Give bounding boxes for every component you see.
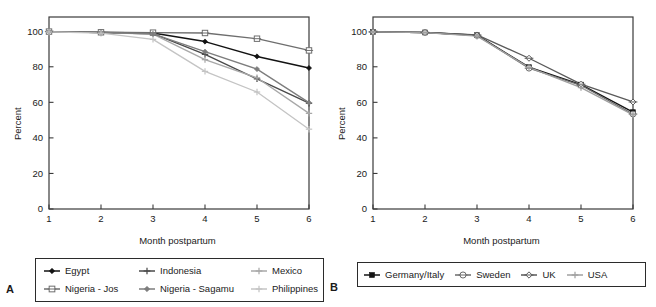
- svg-text:2: 2: [422, 213, 427, 224]
- legend-item-germany-italy[interactable]: Germany/Italy: [362, 269, 444, 281]
- legend-marker-uk-icon: [519, 269, 539, 281]
- panel-b: 020406080100123456 Percent Month postpar…: [328, 0, 656, 307]
- svg-text:6: 6: [630, 213, 635, 224]
- legend-label-indonesia: Indonesia: [160, 266, 201, 276]
- svg-text:3: 3: [474, 213, 479, 224]
- svg-text:0: 0: [38, 203, 43, 214]
- legend-item-mexico[interactable]: Mexico: [249, 265, 318, 277]
- svg-text:0: 0: [362, 203, 367, 214]
- panel-b-plot-area: 020406080100123456: [328, 0, 656, 232]
- svg-text:80: 80: [356, 61, 367, 72]
- panel-b-chart-svg: 020406080100123456: [328, 0, 656, 232]
- panel-a-x-axis-title: Month postpartum: [40, 235, 315, 246]
- legend-label-sweden: Sweden: [476, 270, 510, 280]
- legend-marker-nigeria-sagamu-icon: [137, 283, 157, 295]
- legend-marker-germany-italy-icon: [362, 269, 382, 281]
- panel-a-letter: A: [6, 283, 14, 295]
- figure-container: 020406080100123456 Percent Month postpar…: [0, 0, 656, 307]
- legend-label-uk: UK: [542, 270, 555, 280]
- legend-marker-mexico-icon: [249, 265, 269, 277]
- svg-text:40: 40: [32, 132, 43, 143]
- legend-marker-egypt-icon: [42, 265, 62, 277]
- svg-text:20: 20: [32, 168, 43, 179]
- legend-item-indonesia[interactable]: Indonesia: [137, 265, 249, 277]
- svg-text:60: 60: [32, 97, 43, 108]
- legend-item-nigeria-jos[interactable]: Nigeria - Jos: [42, 283, 137, 295]
- svg-text:6: 6: [306, 213, 311, 224]
- legend-item-uk[interactable]: UK: [519, 269, 555, 281]
- panel-a-y-axis-title: Percent: [12, 107, 23, 140]
- svg-text:40: 40: [356, 132, 367, 143]
- svg-text:5: 5: [578, 213, 583, 224]
- legend-item-sweden[interactable]: Sweden: [453, 269, 510, 281]
- panel-a: 020406080100123456 Percent Month postpar…: [0, 0, 328, 307]
- legend-label-nigeria-jos: Nigeria - Jos: [65, 284, 118, 294]
- svg-text:80: 80: [32, 61, 43, 72]
- svg-text:1: 1: [370, 213, 375, 224]
- svg-text:100: 100: [351, 26, 367, 37]
- svg-text:4: 4: [526, 213, 531, 224]
- svg-text:2: 2: [98, 213, 103, 224]
- panel-b-x-axis-title: Month postpartum: [364, 235, 639, 246]
- panel-b-letter: B: [330, 281, 338, 293]
- legend-label-usa: USA: [588, 270, 608, 280]
- legend-item-philippines[interactable]: Philippines: [249, 283, 318, 295]
- legend-label-egypt: Egypt: [65, 266, 89, 276]
- legend-label-philippines: Philippines: [272, 284, 318, 294]
- svg-text:3: 3: [150, 213, 155, 224]
- svg-text:1: 1: [46, 213, 51, 224]
- legend-label-mexico: Mexico: [272, 266, 302, 276]
- legend-item-usa[interactable]: USA: [565, 269, 608, 281]
- legend-marker-nigeria-jos-icon: [42, 283, 62, 295]
- legend-item-nigeria-sagamu[interactable]: Nigeria - Sagamu: [137, 283, 249, 295]
- panel-b-y-axis-title: Percent: [336, 107, 347, 140]
- legend-marker-usa-icon: [565, 269, 585, 281]
- legend-item-egypt[interactable]: Egypt: [42, 265, 137, 277]
- legend-marker-sweden-icon: [453, 269, 473, 281]
- svg-text:20: 20: [356, 168, 367, 179]
- svg-text:5: 5: [254, 213, 259, 224]
- legend-label-germany-italy: Germany/Italy: [385, 270, 444, 280]
- panel-a-plot-area: 020406080100123456: [0, 0, 328, 232]
- legend-label-nigeria-sagamu: Nigeria - Sagamu: [160, 284, 234, 294]
- svg-text:100: 100: [27, 26, 43, 37]
- legend-marker-indonesia-icon: [137, 265, 157, 277]
- panel-a-legend: EgyptIndonesiaMexicoNigeria - JosNigeria…: [35, 258, 324, 302]
- panel-a-chart-svg: 020406080100123456: [0, 0, 328, 232]
- svg-text:60: 60: [356, 97, 367, 108]
- svg-text:4: 4: [202, 213, 207, 224]
- panel-b-legend: Germany/ItalySwedenUKUSA: [357, 262, 646, 287]
- legend-marker-philippines-icon: [249, 283, 269, 295]
